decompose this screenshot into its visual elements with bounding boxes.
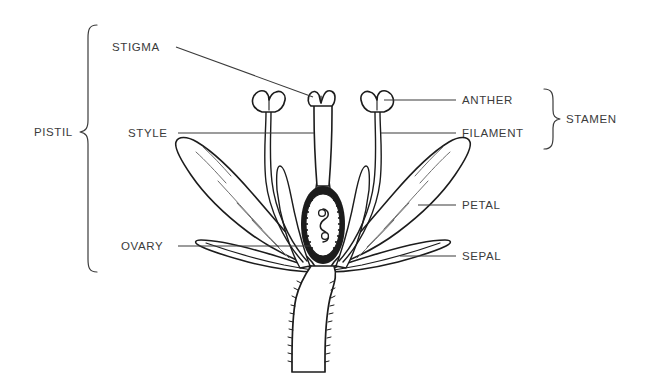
flower-diagram-svg: STIGMA STYLE OVARY ANTHER FILAMENT PETAL…: [0, 0, 649, 375]
label-petal: PETAL: [462, 199, 501, 211]
label-stigma: STIGMA: [112, 41, 160, 53]
leader-line-stigma: [176, 47, 313, 97]
label-anther: ANTHER: [462, 94, 513, 106]
style-and-stigma: [308, 91, 335, 186]
pedicel-stem: [288, 266, 335, 372]
brace-stamen: [544, 89, 560, 149]
label-style: STYLE: [128, 127, 167, 139]
label-filament: FILAMENT: [462, 127, 524, 139]
label-sepal: SEPAL: [462, 250, 501, 262]
flower-anatomy-diagram: STIGMA STYLE OVARY ANTHER FILAMENT PETAL…: [0, 0, 649, 375]
label-ovary: OVARY: [121, 240, 163, 252]
brace-pistil: [80, 25, 97, 272]
label-stamen: STAMEN: [566, 113, 617, 125]
label-pistil: PISTIL: [34, 126, 73, 138]
